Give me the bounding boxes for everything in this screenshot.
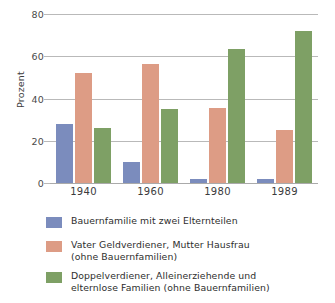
legend-swatch-icon [46,241,62,252]
bar[interactable] [228,49,245,183]
legend-item[interactable]: Doppelverdiener, Alleinerziehende und el… [46,270,270,294]
y-tick-label: 0 [20,178,44,189]
bar[interactable] [142,64,159,183]
legend-label: Doppelverdiener, Alleinerziehende und el… [71,270,270,294]
bar[interactable] [190,179,207,183]
bars-layer [50,0,318,184]
legend-swatch-icon [46,272,62,283]
y-tick-label: 60 [20,51,44,62]
bar-group [117,0,184,183]
legend-item[interactable]: Bauernfamilie mit zwei Elternteilen [46,215,238,228]
y-axis-ticks: 020406080 [20,0,44,200]
bar[interactable] [257,179,274,183]
bar[interactable] [56,124,73,183]
x-tick-label: 1940 [54,186,114,197]
bar[interactable] [209,108,226,183]
bar[interactable] [161,109,178,183]
bar-group [184,0,251,183]
legend: Bauernfamilie mit zwei ElternteilenVater… [0,207,335,303]
x-tick-label: 1989 [255,186,315,197]
legend-swatch-icon [46,217,62,228]
bar[interactable] [94,128,111,183]
bar-group [50,0,117,183]
x-tick-label: 1960 [121,186,181,197]
y-tick-label: 20 [20,135,44,146]
bar[interactable] [295,31,312,183]
x-tick-label: 1980 [188,186,248,197]
legend-item[interactable]: Vater Geldverdiener, Mutter Hausfrau (oh… [46,239,250,263]
legend-label: Vater Geldverdiener, Mutter Hausfrau (oh… [71,239,250,263]
bar[interactable] [123,162,140,183]
legend-label: Bauernfamilie mit zwei Elternteilen [71,215,238,227]
bar[interactable] [276,130,293,183]
plot-area: Prozent 020406080 1940196019801989 [0,0,335,200]
bar-chart: Prozent 020406080 1940196019801989 Bauer… [0,0,335,303]
bar-group [251,0,318,183]
y-tick-label: 80 [20,9,44,20]
bar[interactable] [75,73,92,183]
y-tick-label: 40 [20,93,44,104]
